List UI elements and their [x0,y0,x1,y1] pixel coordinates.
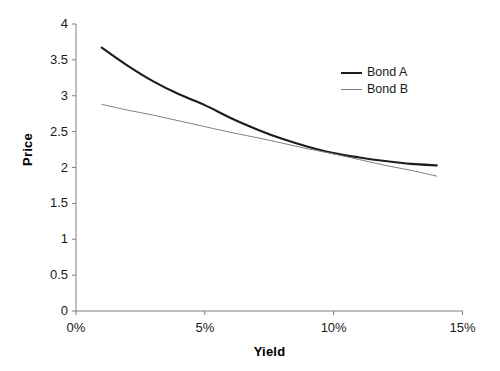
y-tick-label: 3 [22,89,68,102]
legend-label: Bond A [367,65,407,79]
y-tick-label: 1 [22,232,68,245]
legend-item: Bond A [341,63,408,80]
legend-item: Bond B [341,80,408,97]
y-tick-label: 1.5 [22,196,68,209]
x-tick-label: 0% [46,321,106,334]
x-tick-label: 5% [175,321,235,334]
bond-price-yield-chart: 00.511.522.533.54 0%5%10%15% Price Yield… [0,0,500,371]
y-axis-title: Price [20,115,35,185]
plot-area [0,0,500,371]
legend-line-swatch-bond-a [341,67,362,77]
legend-line-swatch-bond-b [341,84,362,94]
y-tick-label: 0.5 [22,268,68,281]
series-line-bond-b [102,104,437,176]
x-tick-label: 15% [433,321,493,334]
chart-legend: Bond A Bond B [341,63,408,97]
y-tick-label: 3.5 [22,53,68,66]
y-tick-label: 4 [22,17,68,30]
y-tick-label: 0 [22,304,68,317]
legend-label: Bond B [367,82,408,96]
x-axis-title: Yield [76,344,463,359]
x-tick-label: 10% [304,321,364,334]
